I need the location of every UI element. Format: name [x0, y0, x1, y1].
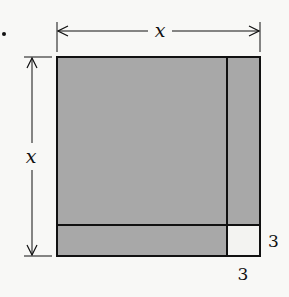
top-dimension-label: x — [155, 19, 166, 41]
bullet-icon — [2, 32, 6, 36]
bottom-small-label: 3 — [238, 264, 249, 284]
right-small-label: 3 — [268, 231, 279, 251]
region-small-square — [227, 225, 260, 256]
region-bottom-strip — [57, 225, 227, 256]
left-dimension-label: x — [26, 145, 37, 167]
region-right-strip — [227, 57, 260, 225]
completing-the-square-diagram: x x 3 3 — [0, 0, 289, 297]
region-x-squared — [57, 57, 227, 225]
